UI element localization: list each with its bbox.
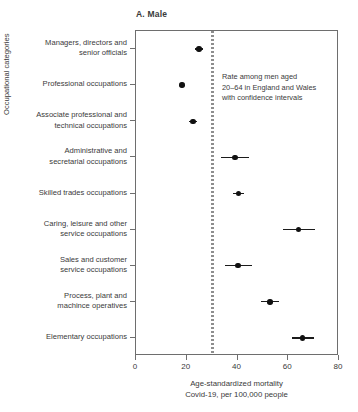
data-point-marker [179, 82, 184, 87]
y-axis-category-label: Process, plant and machince operatives [57, 291, 127, 312]
y-axis-category-label: Elementary occupations [46, 332, 127, 342]
data-point-marker [196, 46, 201, 51]
y-axis-category-label: Managers, directors and senior officials [45, 38, 127, 59]
y-axis-tick [130, 337, 135, 338]
x-axis-tick [186, 355, 187, 360]
x-axis-tick-label: 20 [181, 362, 190, 371]
annotation-line-2: 20–64 in England and Wales [222, 83, 348, 94]
y-axis-title: Occupational categories [2, 34, 11, 115]
x-axis-tick [287, 355, 288, 360]
data-point-marker [300, 335, 305, 340]
x-axis-tick [237, 355, 238, 360]
annotation-line-3: with confidence intervals [222, 93, 348, 104]
y-axis-tick [130, 265, 135, 266]
y-axis-category-label: Administrative and secretarial occupatio… [49, 146, 127, 167]
chart-figure: A. Male Rate among men aged 20–64 in Eng… [0, 0, 358, 412]
y-axis-category-label: Associate professional and technical occ… [36, 110, 127, 131]
x-axis-tick [135, 355, 136, 360]
y-axis-tick [130, 156, 135, 157]
y-axis-category-label: Caring, leisure and other service occupa… [44, 218, 127, 239]
y-axis-tick [130, 84, 135, 85]
x-axis-tick [338, 355, 339, 360]
x-axis-title: Age-standardized mortality Covid-19, per… [135, 378, 338, 401]
data-point-marker [235, 263, 240, 268]
x-axis-tick-label: 40 [232, 362, 241, 371]
y-axis-category-label: Sales and customer service occupations [60, 254, 127, 275]
annotation-line-1: Rate among men aged [222, 72, 348, 83]
x-axis-title-line-1: Age-standardized mortality [135, 378, 338, 389]
y-axis-tick [130, 229, 135, 230]
x-axis-tick-label: 0 [133, 362, 137, 371]
y-axis-category-label: Skilled trades occupations [39, 187, 127, 197]
panel-title: A. Male [136, 9, 167, 19]
x-axis-tick-label: 60 [283, 362, 292, 371]
data-point-marker [190, 119, 195, 124]
x-axis-title-line-2: Covid-19, per 100,000 people [135, 389, 338, 400]
reference-line [211, 31, 214, 354]
y-axis-tick [130, 193, 135, 194]
data-point-marker [236, 191, 241, 196]
y-axis-tick [130, 120, 135, 121]
annotation-note: Rate among men aged 20–64 in England and… [222, 72, 348, 104]
data-point-marker [267, 299, 272, 304]
y-axis-tick [130, 301, 135, 302]
y-axis-tick [130, 48, 135, 49]
data-point-marker [232, 155, 237, 160]
y-axis-category-label: Professional occupations [43, 79, 127, 89]
data-point-marker [296, 227, 301, 232]
x-axis-tick-label: 80 [334, 362, 343, 371]
